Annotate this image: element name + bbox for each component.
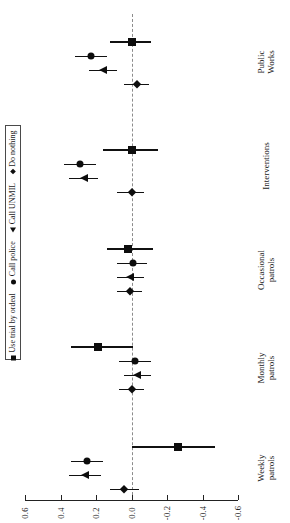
legend-entry: Do nothing xyxy=(9,130,17,173)
forest-plot: 0.60.40.20.0-0.2-0.4-0.6WeeklypatrolsMon… xyxy=(0,0,290,523)
category-label: Weeklypatrols xyxy=(256,433,276,503)
data-point-diamond xyxy=(133,80,141,88)
zero-reference-line xyxy=(132,14,133,500)
data-point-triangle xyxy=(126,273,134,281)
legend-triangle-icon xyxy=(10,227,16,232)
category-label: Occasionalpatrols xyxy=(256,235,276,305)
data-point-triangle xyxy=(133,371,141,379)
axis-tick-label: 0.2 xyxy=(91,498,101,523)
data-point-square xyxy=(128,38,136,46)
data-point-square xyxy=(124,245,132,253)
data-point-square xyxy=(94,343,102,351)
data-point-diamond xyxy=(121,485,129,493)
axis-tick-label: -0.2 xyxy=(162,498,172,523)
data-point-triangle xyxy=(80,174,88,182)
legend-label: Call UNMIL xyxy=(9,182,17,224)
confidence-interval-bar xyxy=(71,346,133,348)
data-point-circle xyxy=(130,260,137,267)
axis-tick-label: 0.4 xyxy=(56,498,66,523)
category-label: PublicWorks xyxy=(256,27,276,97)
data-point-circle xyxy=(84,458,91,465)
data-point-circle xyxy=(132,358,139,365)
legend-label: Call police xyxy=(9,241,17,276)
axis-tick-label: 0.6 xyxy=(20,498,30,523)
data-point-triangle xyxy=(99,66,107,74)
legend-entry: Use trial by ordeal xyxy=(9,293,17,360)
axis-tick-label: -0.4 xyxy=(198,498,208,523)
axis-tick-label: -0.6 xyxy=(233,498,243,523)
legend-entries: Use trial by ordealCall policeCall UNMIL… xyxy=(9,125,17,360)
category-label: Monthlypatrols xyxy=(256,333,276,403)
legend-label: Do nothing xyxy=(9,130,17,166)
data-point-circle xyxy=(87,53,94,60)
legend-entry: Call police xyxy=(9,241,17,284)
data-point-square xyxy=(174,443,182,451)
legend-diamond-icon xyxy=(10,168,16,174)
legend-square-icon xyxy=(11,355,16,360)
data-point-square xyxy=(128,146,136,154)
data-point-diamond xyxy=(128,385,136,393)
axis-tick-label: 0.0 xyxy=(127,498,137,523)
legend-entry: Call UNMIL xyxy=(9,182,17,232)
data-point-circle xyxy=(77,161,84,168)
data-point-diamond xyxy=(128,188,136,196)
legend-box: Use trial by ordealCall policeCall UNMIL… xyxy=(5,125,21,360)
legend-circle-icon xyxy=(11,279,16,284)
category-label: Interventions xyxy=(261,131,271,201)
legend-label: Use trial by ordeal xyxy=(9,293,17,352)
data-point-triangle xyxy=(81,471,89,479)
